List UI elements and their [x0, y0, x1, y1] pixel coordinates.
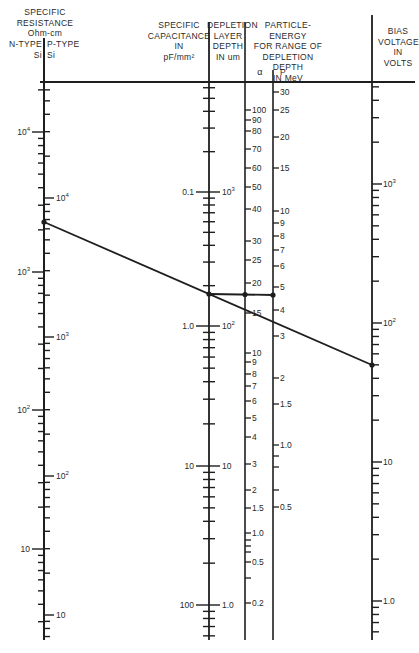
label-alpha: 50	[252, 182, 262, 192]
label-capacitance: 0.1	[182, 187, 194, 197]
label-alpha: 6	[252, 396, 257, 406]
label-p-type: 10	[56, 610, 66, 620]
label-proton: 4	[280, 305, 285, 315]
label-bias: 1.0	[383, 596, 395, 606]
label-proton: 5	[280, 282, 285, 292]
label-proton: 8	[280, 231, 285, 241]
label-depth: 10	[222, 461, 232, 471]
label-proton: 10	[280, 206, 290, 216]
label-alpha: 1.5	[252, 503, 264, 513]
label-alpha: 1.0	[252, 528, 264, 538]
label-proton: 15	[280, 163, 290, 173]
label-depth: 103	[222, 186, 235, 197]
label-proton: 7	[280, 245, 285, 255]
label-p-type: 104	[56, 192, 69, 203]
label-alpha: 90	[252, 115, 262, 125]
label-depth: 102	[222, 320, 235, 331]
intersection-dot	[270, 292, 275, 297]
label-proton: 1.0	[280, 440, 292, 450]
label-alpha: 0.5	[252, 557, 264, 567]
label-alpha: 5	[252, 413, 257, 423]
label-capacitance: 10	[185, 461, 195, 471]
label-n-type: 104	[17, 126, 30, 137]
label-p-type: 102	[56, 470, 69, 481]
label-proton: 0.5	[280, 502, 292, 512]
intersection-dot	[369, 362, 374, 367]
label-proton: 20	[280, 132, 290, 142]
label-proton: 30	[280, 87, 290, 97]
label-alpha: 0.2	[252, 598, 264, 608]
label-alpha: 40	[252, 204, 262, 214]
label-alpha: 9	[252, 357, 257, 367]
label-capacitance: 1.0	[182, 321, 194, 331]
label-bias: 103	[383, 178, 396, 189]
label-proton: 25	[280, 105, 290, 115]
label-proton: 1.5	[280, 399, 292, 409]
label-alpha: 30	[252, 236, 262, 246]
label-p-type: 103	[56, 331, 69, 342]
label-proton: 2	[280, 373, 285, 383]
intersection-dot	[242, 292, 247, 297]
label-alpha: 20	[252, 278, 262, 288]
label-alpha: 3	[252, 459, 257, 469]
intersection-dot	[206, 291, 211, 296]
label-alpha: 80	[252, 126, 262, 136]
label-bias: 102	[383, 317, 396, 328]
label-bias: 10	[383, 457, 393, 467]
label-proton: 3	[280, 331, 285, 341]
nomogram-canvas: 10410310210104103102100.11.0101001031021…	[0, 0, 419, 653]
label-depth: 1.0	[222, 600, 234, 610]
label-alpha: 2	[252, 485, 257, 495]
label-alpha: 100	[252, 105, 266, 115]
label-n-type: 103	[17, 266, 30, 277]
label-proton: 6	[280, 261, 285, 271]
label-n-type: 10	[21, 544, 31, 554]
label-capacitance: 100	[180, 600, 194, 610]
label-alpha: 4	[252, 432, 257, 442]
label-n-type: 102	[17, 404, 30, 415]
label-alpha: 7	[252, 381, 257, 391]
intersection-dot	[41, 219, 46, 224]
label-alpha: 8	[252, 369, 257, 379]
label-alpha: 60	[252, 163, 262, 173]
example-line-depth-energy	[209, 294, 273, 295]
label-alpha: 70	[252, 144, 262, 154]
label-proton: 9	[280, 218, 285, 228]
label-alpha: 25	[252, 255, 262, 265]
